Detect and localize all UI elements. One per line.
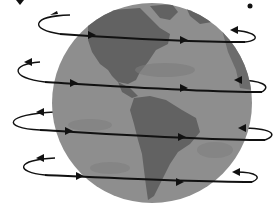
arrow-left-icon (230, 26, 238, 34)
earth-diagram (0, 0, 277, 209)
top-left-mark-icon (16, 0, 24, 5)
arrow-left-icon (36, 154, 44, 162)
globe-illustration (0, 0, 277, 209)
arrow-left-icon (50, 11, 58, 15)
top-right-dot-icon (248, 4, 253, 9)
globe (52, 3, 255, 203)
arrow-left-icon (232, 168, 240, 176)
arrow-left-icon (36, 108, 44, 116)
